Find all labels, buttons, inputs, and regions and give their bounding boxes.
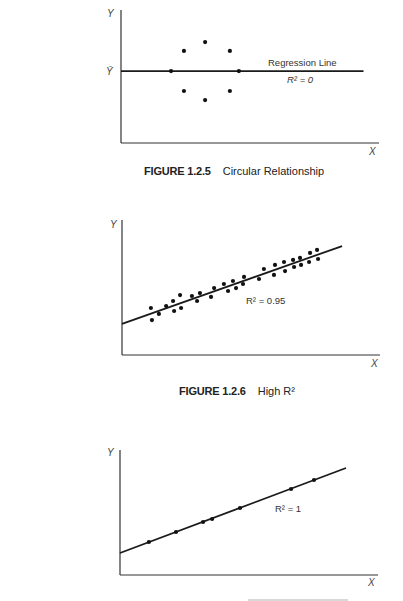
figure-1-2-5-chart: Y X Ȳ Regression Line R² = 0 [106,8,379,157]
data-point [182,89,186,93]
data-point [291,258,295,262]
figure-1-2-5-caption: FIGURE 1.2.5Circular Relationship [144,165,324,177]
data-point [178,293,182,297]
y-axis-label: Y [107,447,115,458]
regression-line [122,246,342,324]
x-axis-label: X [370,358,378,369]
data-point [147,540,151,544]
y-axis-label: Y [110,219,118,230]
data-point [150,318,154,322]
data-point [289,487,293,491]
x-axis-label: X [367,577,375,588]
data-point [312,478,316,482]
figure-number: FIGURE 1.2.5 [144,165,211,177]
data-point [172,309,176,313]
r-squared-annotation: R² = 0 [287,74,314,85]
data-point [316,257,320,261]
data-point [212,286,216,290]
data-point [209,295,213,299]
data-point [242,275,246,279]
data-point [149,306,153,310]
regression-line-annotation: Regression Line [268,57,337,68]
data-point [203,98,207,102]
data-point [234,286,238,290]
figure-1-2-6-chart: Y X R² = 0.95 [110,219,380,369]
data-point [169,69,173,73]
data-point [283,269,287,273]
data-point [273,263,277,267]
data-point [228,89,232,93]
data-point [315,248,319,252]
figure-1-2-6-caption: FIGURE 1.2.6High R² [179,385,295,397]
data-point [237,69,241,73]
data-point [307,260,311,264]
data-point [171,299,175,303]
y-mean-label: Ȳ [106,66,114,77]
data-point [226,289,230,293]
data-point [157,312,161,316]
data-point [210,517,214,521]
data-point [228,49,232,53]
data-point [308,251,312,255]
data-point [231,279,235,283]
data-point [292,265,296,269]
data-point [241,282,245,286]
data-point [198,291,202,295]
figure-title: Circular Relationship [223,165,325,177]
figure-number: FIGURE 1.2.6 [179,385,246,397]
cropped-caption [248,596,348,601]
y-axis-label: Y [107,8,115,19]
data-point [190,294,194,298]
data-point [201,520,205,524]
data-point [262,267,266,271]
data-point [299,263,303,267]
data-point [222,282,226,286]
data-point [174,530,178,534]
data-point [238,506,242,510]
r-squared-annotation: R² = 1 [275,503,301,514]
data-point [164,304,168,308]
data-point [203,40,207,44]
figure-perfect-fit-chart: Y X R² = 1 [107,447,378,588]
figure-title: High R² [258,385,295,397]
data-point [257,277,261,281]
data-point [282,260,286,264]
x-axis-label: X [368,146,376,157]
data-point [195,299,199,303]
data-point [272,273,276,277]
r-squared-annotation: R² = 0.95 [246,295,285,306]
data-point [182,49,186,53]
data-point [179,306,183,310]
data-point [298,256,302,260]
figures-canvas: Y X Ȳ Regression Line R² = 0 Y X R² = 0.… [0,0,403,601]
